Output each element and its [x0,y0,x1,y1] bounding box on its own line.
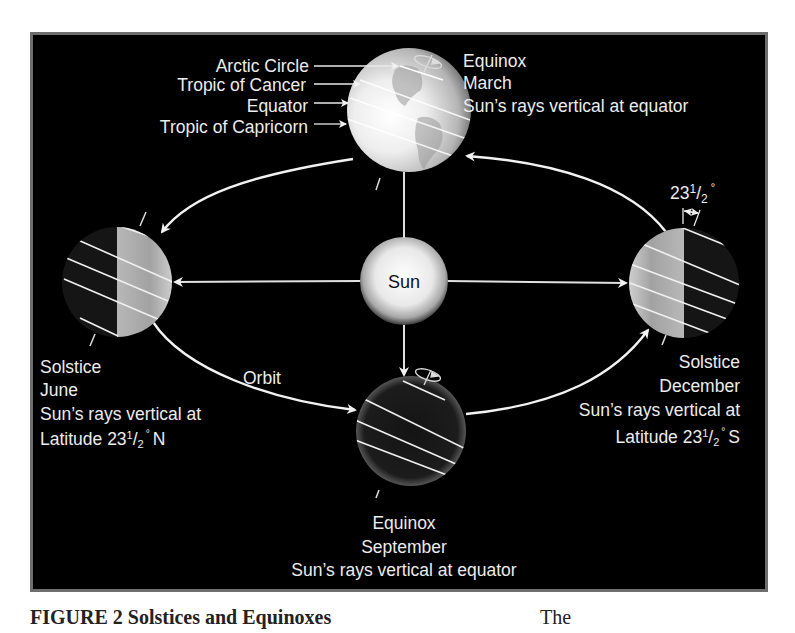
label-tropic-of-capricorn: Tropic of Capricorn [160,117,308,137]
sun-label: Sun [388,272,420,292]
december-event: Solstice [679,352,740,372]
earth-june-solstice [62,212,177,346]
sun: Sun [360,237,448,325]
june-month: June [40,380,78,400]
tilt-annotation: 231/2° [670,181,715,226]
march-label: Equinox March Sun’s rays vertical at equ… [463,51,689,116]
december-label: Solstice December Sun’s rays vertical at… [579,352,740,448]
june-note-2: Latitude 231/2°N [40,428,165,450]
march-month: March [463,73,512,93]
label-arctic-circle: Arctic Circle [216,56,309,76]
september-event: Equinox [372,513,435,533]
earth-march-equinox [345,48,471,238]
label-equator: Equator [247,96,308,116]
tilt-label: 231/2° [670,181,715,206]
september-month: September [361,537,447,557]
december-note-1: Sun’s rays vertical at [579,400,740,420]
caption-title: FIGURE 2 Solstices and Equinoxes [30,606,331,628]
march-note: Sun’s rays vertical at equator [463,96,689,116]
june-note-1: Sun’s rays vertical at [40,404,201,424]
figure-caption: FIGURE 2 Solstices and Equinoxes The [30,606,790,633]
june-label: Solstice June Sun’s rays vertical at Lat… [40,357,201,450]
caption-body-start: The [540,606,571,629]
label-tropic-of-cancer: Tropic of Cancer [177,75,306,95]
june-event: Solstice [40,357,101,377]
earth-september-equinox [355,366,470,498]
december-month: December [659,376,740,396]
march-event: Equinox [463,51,526,71]
orbit-label: Orbit [243,368,281,388]
september-note: Sun’s rays vertical at equator [291,560,517,580]
december-note-2: Latitude 231/2°S [616,426,740,448]
earth-december-solstice [625,220,740,345]
september-label: Equinox September Sun’s rays vertical at… [291,513,517,580]
